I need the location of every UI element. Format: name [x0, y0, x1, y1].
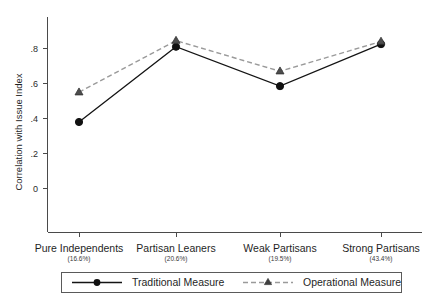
y-tick-label-0: 0: [33, 184, 38, 194]
triangle-marker-icon: [377, 37, 385, 44]
x-category-share-1: (16.6%): [68, 255, 91, 263]
y-tick-label-0.6: .6: [30, 79, 38, 89]
data-series-layer: [75, 36, 385, 125]
circle-marker-icon: [75, 118, 82, 125]
circle-marker-icon: [276, 83, 283, 90]
circle-marker-icon: [172, 43, 179, 50]
series-line-0: [79, 44, 381, 122]
x-category-label-1: Pure Independents: [35, 242, 124, 254]
x-category-label-4: Strong Partisans: [342, 242, 420, 254]
series-line-1: [79, 41, 381, 93]
x-category-label-2: Partisan Leaners: [136, 242, 215, 254]
x-category-share-2: (20.6%): [165, 255, 188, 263]
series-traditional: [75, 41, 384, 126]
circle-marker-icon: [94, 279, 101, 286]
x-axis-ticks: [80, 233, 382, 238]
x-axis-category-labels: Pure Independents (16.6%) Partisan Leane…: [35, 242, 420, 263]
x-category-share-3: (19.5%): [269, 255, 292, 263]
triangle-marker-icon: [276, 67, 284, 74]
legend-label-traditional: Traditional Measure: [132, 276, 225, 288]
x-category-share-4: (43.4%): [370, 255, 393, 263]
triangle-marker-icon: [172, 36, 180, 43]
legend-label-operational: Operational Measure: [303, 276, 401, 288]
chart-legend: Traditional Measure Operational Measure: [62, 273, 402, 293]
y-axis-title: Correlation with Issue Index: [13, 73, 24, 190]
y-axis-ticks: .8 .6 .4 .2 0: [30, 44, 47, 194]
x-category-label-3: Weak Partisans: [243, 242, 316, 254]
y-tick-label-0.4: .4: [30, 114, 38, 124]
y-tick-label-0.2: .2: [30, 149, 38, 159]
chart-figure: Correlation with Issue Index .8 .6 .4 .2…: [0, 0, 431, 299]
y-tick-label-0.8: .8: [30, 44, 38, 54]
series-operational: [75, 36, 385, 95]
correlation-line-chart: Correlation with Issue Index .8 .6 .4 .2…: [0, 0, 431, 299]
